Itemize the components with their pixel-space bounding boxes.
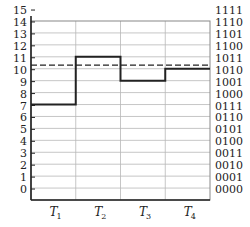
x-category-subscript: 4 [191, 212, 196, 221]
y-tick-label: 3 [20, 147, 27, 160]
x-category-subscript: 1 [56, 212, 61, 221]
y-tick-label: 12 [13, 40, 27, 53]
y-tick-label: 8 [20, 88, 27, 101]
y-tick-label: 11 [13, 52, 27, 65]
x-category-subscript: 2 [101, 212, 106, 221]
binary-code-label: 1011 [215, 52, 243, 65]
y-tick-label: 14 [13, 16, 27, 29]
grid-lines [31, 21, 210, 200]
y-tick-label: 4 [20, 135, 27, 148]
y-tick-label: 15 [13, 4, 27, 17]
binary-code-label: 0001 [215, 171, 243, 184]
binary-code-label: 1111 [215, 4, 243, 17]
binary-code-label: 0100 [215, 135, 243, 148]
binary-code-label: 0110 [215, 111, 243, 124]
y-tick-label: 13 [13, 28, 27, 41]
binary-code-label: 1001 [215, 76, 243, 89]
y-tick-label: 9 [20, 76, 27, 89]
y-tick-label: 10 [13, 64, 27, 77]
binary-code-label: 1101 [215, 28, 243, 41]
right-axis-binary-labels: 0000000100100011010001010110011110001001… [215, 4, 243, 196]
binary-code-label: 1000 [215, 88, 243, 101]
binary-code-label: 0010 [215, 159, 243, 172]
x-category-subscript: 3 [146, 212, 151, 221]
binary-code-label: 1010 [215, 64, 243, 77]
y-tick-label: 6 [20, 111, 27, 124]
binary-code-label: 1110 [215, 16, 243, 29]
step-chart: 0123456789101112131415 00000001001000110… [0, 0, 250, 227]
binary-code-label: 0011 [215, 147, 243, 160]
y-tick-label: 2 [20, 159, 27, 172]
binary-code-label: 1100 [215, 40, 243, 53]
y-tick-label: 1 [20, 171, 27, 184]
binary-code-label: 0000 [215, 183, 243, 196]
y-tick-label: 7 [20, 100, 27, 113]
y-tick-label: 5 [20, 123, 27, 136]
x-axis-labels: T1T2T3T4 [49, 205, 195, 221]
y-tick-label: 0 [20, 183, 27, 196]
binary-code-label: 0101 [215, 123, 243, 136]
binary-code-label: 0111 [215, 100, 243, 113]
